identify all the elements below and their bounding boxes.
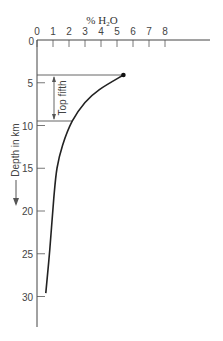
- x-ticks: 012345678: [34, 26, 168, 47]
- top-fifth-label: Top fifth: [57, 80, 68, 115]
- y-ticks: 051015202530: [22, 36, 45, 303]
- y-tick-label: 30: [22, 292, 34, 303]
- x-tick-label: 5: [114, 26, 120, 37]
- x-tick-label: 3: [82, 26, 88, 37]
- x-tick-label: 0: [34, 26, 40, 37]
- y-tick-label: 25: [22, 249, 34, 260]
- y-axis-title: Depth in km: [10, 123, 21, 176]
- x-tick-label: 4: [98, 26, 104, 37]
- x-tick-label: 7: [146, 26, 152, 37]
- x-tick-label: 2: [66, 26, 72, 37]
- arrow-down-icon: [52, 114, 56, 120]
- y-tick-label: 20: [22, 206, 34, 217]
- x-tick-label: 6: [130, 26, 136, 37]
- y-tick-label: 0: [28, 36, 34, 47]
- y-tick-label: 5: [27, 78, 33, 89]
- y-tick-label: 15: [22, 163, 34, 174]
- x-tick-label: 1: [50, 26, 56, 37]
- down-arrow-icon: [13, 180, 19, 206]
- arrow-up-icon: [52, 76, 56, 82]
- x-tick-label: 8: [162, 26, 168, 37]
- depth-water-chart: % H2O 012345678 051015202530 Depth in km…: [0, 0, 223, 341]
- surface-point-marker: [121, 73, 126, 78]
- y-tick-label: 10: [22, 121, 34, 132]
